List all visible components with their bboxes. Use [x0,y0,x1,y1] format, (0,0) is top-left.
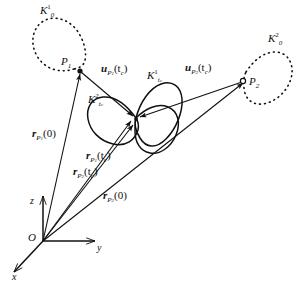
point-p2-label-sub: 2 [256,82,260,90]
point-p2-label: P2 [249,76,259,90]
label-u-p2-tc-arg-end: ) [208,61,212,73]
label-ktc-2-sup: 2 [95,92,99,100]
axis-x-label: x [12,272,16,282]
axis-z-label: z [30,196,34,206]
axis-y-label: y [97,243,101,253]
label-r-p1-0: rP1(0) [32,128,56,142]
label-r-p2-tc: rP2(tc) [73,166,98,180]
label-k0-2: K20 [268,32,282,47]
label-k0-2-sup: 2 [275,31,279,39]
point-p1-dot [77,68,82,73]
point-p1-label: P1 [61,56,71,70]
collision-point [134,117,138,121]
label-u-p2-tc-sub: P2 [191,68,198,76]
label-u-p1-tc-arg: (t [114,62,121,74]
label-k0-2-sub: 0 [279,39,283,47]
label-u-p1-tc-arg-end: ) [124,62,128,74]
label-r-p2-tc-arg: (t [84,165,91,177]
label-ktc-2-sub: tc [99,100,103,108]
body-outline-k0-1-path [33,18,86,71]
point-p2-dot [240,78,245,83]
point-p1-label-sub: 1 [68,62,72,70]
label-r-p2-0: rP2(0) [103,190,127,204]
label-u-p1-tc: uP1(tc) [101,63,127,77]
label-r-p1-tc-arg-end: ) [107,149,111,161]
label-u-p2-tc-arg: (t [198,61,205,73]
label-k0-1-sup: 1 [47,3,51,11]
label-ktc-2: K2tc [88,93,103,108]
diagram-svg [0,0,300,288]
point-p2-label-main: P [249,75,256,87]
label-u-p1-tc-sub: P1 [107,69,114,77]
label-r-p1-tc-arg: (t [97,149,104,161]
label-k0-1: K10 [40,4,54,19]
label-r-p2-tc-arg-end: ) [94,165,98,177]
axis-x-line [14,241,43,272]
figure-canvas: K10 K20 P1 P2 K1tc K2tc uP1(tc) uP2(tc) … [0,0,300,288]
label-r-p1-tc: rP1(tc) [86,150,111,164]
axis-origin-label: O [28,232,36,243]
label-ktc-1-sub: tc [158,76,162,84]
point-p1-label-main: P [61,55,68,67]
label-r-p2-0-arg: (0) [114,189,127,201]
label-u-p2-tc: uP2(tc) [185,62,211,76]
vector-r-p2-tc-line [43,125,133,241]
label-r-p1-0-arg: (0) [43,127,56,139]
label-k0-1-sub: 0 [51,11,55,19]
body-outline-ktc-1-inner-path [135,106,178,154]
label-ktc-1: K1tc [147,69,162,84]
label-ktc-1-sup: 1 [154,68,158,76]
